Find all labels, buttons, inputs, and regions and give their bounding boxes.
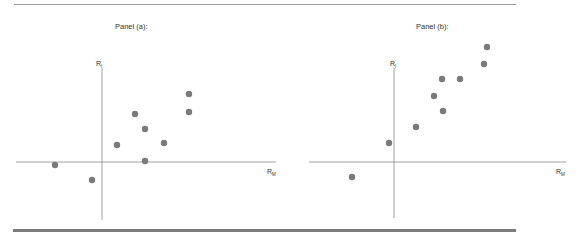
panel-b-title: Panel (b):	[416, 22, 449, 31]
data-point	[132, 111, 138, 117]
panel-a: Panel (a): RI RM	[16, 22, 276, 220]
data-point	[114, 142, 120, 148]
data-point	[89, 177, 95, 183]
data-point	[481, 61, 487, 67]
scatter-figure: Panel (a): RI RM Panel (b): RI RM	[0, 0, 585, 239]
data-point	[413, 124, 419, 130]
data-point	[186, 109, 192, 115]
data-point	[349, 174, 355, 180]
data-point	[457, 76, 463, 82]
data-point	[386, 140, 392, 146]
panel-a-points	[52, 91, 192, 183]
data-point	[439, 76, 445, 82]
data-point	[161, 140, 167, 146]
data-point	[52, 162, 58, 168]
data-point	[142, 158, 148, 164]
panel-a-x-label: RM	[267, 168, 276, 177]
data-point	[440, 108, 446, 114]
data-point	[186, 91, 192, 97]
data-point	[431, 93, 437, 99]
panel-b-y-label: RI	[390, 60, 396, 69]
data-point	[142, 126, 148, 132]
panel-a-y-label: RI	[96, 60, 102, 69]
bottom-rule	[13, 229, 516, 232]
panel-a-title: Panel (a):	[115, 22, 148, 31]
data-point	[484, 44, 490, 50]
panel-b-points	[349, 44, 490, 180]
panel-b-x-label: RM	[556, 168, 565, 177]
panel-b: Panel (b): RI RM	[309, 22, 566, 218]
